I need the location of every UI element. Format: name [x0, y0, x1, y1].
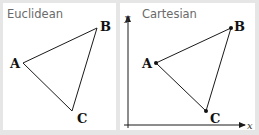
cartesian-triangle: [156, 28, 231, 111]
point-b-icon: [229, 26, 233, 30]
euclidean-triangle: [23, 28, 97, 111]
euclid-label-c: C: [77, 111, 87, 126]
cart-label-a: A: [141, 56, 153, 71]
euclid-label-a: A: [9, 56, 21, 71]
cart-label-b: B: [234, 19, 245, 34]
point-c-icon: [204, 109, 208, 113]
euclid-label-b: B: [100, 19, 111, 34]
triangle-diagrams: A B C y x A B C: [0, 0, 259, 135]
y-axis-label: y: [124, 12, 131, 23]
cart-label-c: C: [210, 111, 220, 126]
x-axis-label: x: [247, 120, 253, 131]
point-a-icon: [154, 61, 158, 65]
